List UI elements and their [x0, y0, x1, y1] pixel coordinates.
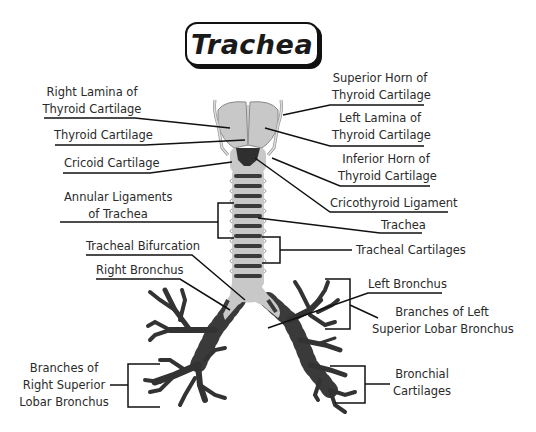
label-line: Thyroid Cartilage: [42, 101, 142, 118]
label-right-bronchus: Right Bronchus: [96, 262, 184, 279]
label-line: of Trachea: [64, 206, 172, 223]
label-line: Trachea: [381, 217, 426, 234]
label-right-lamina: Right Lamina of Thyroid Cartilage: [42, 84, 142, 118]
label-superior-horn: Superior Horn of Thyroid Cartilage: [332, 70, 428, 104]
label-left-bronchus: Left Bronchus: [368, 276, 447, 293]
label-left-lamina: Left Lamina of Thyroid Cartilage: [332, 110, 428, 144]
label-annular-ligaments: Annular Ligaments of Trachea: [64, 189, 172, 223]
cricoid-cartilage: [230, 148, 266, 172]
label-thyroid-cartilage: Thyroid Cartilage: [54, 127, 153, 144]
label-tracheal-bifurcation: Tracheal Bifurcation: [86, 238, 200, 255]
tracheal-rings: [230, 168, 266, 288]
label-line: Cricoid Cartilage: [64, 155, 160, 172]
label-branches-left: Branches of Left Superior Lobar Bronchus: [372, 304, 512, 338]
label-line: Left Lamina of: [332, 110, 428, 127]
label-line: Right Bronchus: [96, 262, 184, 279]
label-line: Right Superior: [18, 377, 110, 394]
label-cricoid-cartilage: Cricoid Cartilage: [64, 155, 160, 172]
label-line: Branches of: [18, 360, 110, 377]
title-box: Trachea: [185, 22, 319, 66]
label-line: Right Lamina of: [42, 84, 142, 101]
label-line: Thyroid Cartilage: [54, 127, 153, 144]
label-branches-right: Branches of Right Superior Lobar Bronchu…: [18, 360, 110, 411]
label-trachea: Trachea: [381, 217, 426, 234]
label-line: Thyroid Cartilage: [338, 168, 434, 185]
label-line: Tracheal Bifurcation: [86, 238, 200, 255]
label-line: Annular Ligaments: [64, 189, 172, 206]
label-line: Branches of Left: [372, 304, 512, 321]
label-line: Cricothyroid Ligament: [330, 195, 458, 212]
label-line: Left Bronchus: [368, 276, 447, 293]
label-line: Thyroid Cartilage: [332, 87, 428, 104]
trachea-diagram: Trachea Right Lamina of Thyroid Cartilag…: [0, 0, 536, 432]
label-cricothyroid-ligament: Cricothyroid Ligament: [330, 195, 458, 212]
label-line: Thyroid Cartilage: [332, 127, 428, 144]
label-line: Cartilages: [390, 383, 454, 400]
diagram-title: Trachea: [191, 29, 313, 60]
label-line: Tracheal Cartilages: [356, 242, 466, 259]
label-line: Lobar Bronchus: [18, 394, 110, 411]
label-bronchial-cartilages: Bronchial Cartilages: [390, 366, 454, 400]
label-inferior-horn: Inferior Horn of Thyroid Cartilage: [338, 151, 434, 185]
label-line: Inferior Horn of: [338, 151, 434, 168]
label-line: Superior Lobar Bronchus: [372, 321, 512, 338]
label-line: Superior Horn of: [332, 70, 428, 87]
label-line: Bronchial: [390, 366, 454, 383]
label-tracheal-cartilages: Tracheal Cartilages: [356, 242, 466, 259]
